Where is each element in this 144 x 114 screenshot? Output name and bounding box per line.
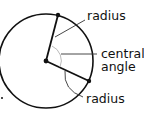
label-radius-bottom: radius <box>86 91 125 106</box>
radius-endpoint-top <box>56 13 60 17</box>
label-central-2: angle <box>101 59 136 74</box>
label-radius-top: radius <box>87 8 126 23</box>
radius-endpoint-bottom <box>87 79 91 83</box>
stray-dot <box>1 97 3 99</box>
circle-diagram: radius central angle radius <box>0 0 144 114</box>
center-point <box>44 59 49 64</box>
radius-line-bottom <box>46 61 89 81</box>
radius-line-top <box>46 15 58 61</box>
